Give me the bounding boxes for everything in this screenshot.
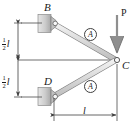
- pin-joint-B: [53, 21, 58, 26]
- fraction-one-half-lower: 1 2: [2, 75, 6, 90]
- member-BC: [53, 24, 116, 61]
- dimension-label-span: l: [83, 106, 86, 116]
- dimension-symbol-lower: l: [7, 77, 10, 87]
- truss-figure: B D C P A A 1 2 l 1 2 l l: [0, 0, 133, 128]
- load-label-P: P: [121, 8, 127, 18]
- member-DC: [53, 60, 116, 97]
- joint-label-D: D: [44, 76, 52, 87]
- joint-label-B: B: [44, 2, 51, 13]
- fraction-one-half-upper: 1 2: [2, 37, 6, 52]
- dimension-symbol-upper: l: [7, 39, 10, 49]
- joint-label-C: C: [122, 60, 129, 71]
- area-label-upper: A: [84, 28, 97, 41]
- dimension-label-upper-half: 1 2 l: [2, 34, 10, 52]
- area-label-lower: A: [84, 80, 97, 93]
- pin-joint-C: [114, 57, 119, 62]
- truss-diagram-svg: [0, 0, 133, 128]
- dimension-label-lower-half: 1 2 l: [2, 72, 10, 90]
- pin-joint-D: [53, 94, 58, 99]
